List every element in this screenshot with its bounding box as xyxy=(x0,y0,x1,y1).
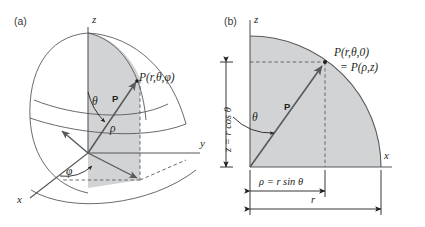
panel-b-vertical-dim-label: z = r cos θ xyxy=(223,107,234,152)
panel-b-r-dim-label: r xyxy=(311,195,315,206)
panel-b-graphic xyxy=(212,0,425,227)
panel-a-theta-label: θ xyxy=(92,96,98,108)
axis-x-line xyxy=(30,153,88,198)
panel-b-rho-dim-label: ρ = r sin θ xyxy=(259,177,303,188)
panel-a-point-label: P(r,θ,φ) xyxy=(139,72,175,84)
panel-b-axis-z-label: z xyxy=(254,14,258,25)
panel-b: (b) z x P(r,θ,0) = P(ρ,z) P θ z = r cos … xyxy=(212,0,425,227)
panel-b-theta-label: θ xyxy=(252,112,258,124)
panel-a-axis-y-label: y xyxy=(200,138,205,149)
panel-a-graphic xyxy=(0,0,213,227)
point-p-marker-b xyxy=(323,60,327,64)
panel-b-point-label-1: P(r,θ,0) xyxy=(334,47,369,59)
panel-a-phi-label: φ xyxy=(66,166,72,178)
panel-a-tag: (a) xyxy=(14,16,27,27)
panel-b-vector-label: P xyxy=(284,102,290,112)
panel-b-point-label-2: = P(ρ,z) xyxy=(340,62,378,74)
rho-arrow-reverse xyxy=(62,131,88,153)
panel-a-axis-x-label: x xyxy=(17,194,22,205)
panel-a-axis-z-label: z xyxy=(92,14,96,25)
figure-root: (a) z y x P(r,θ,φ) P θ ρ φ xyxy=(0,0,425,227)
panel-b-tag: (b) xyxy=(224,16,237,27)
dashed-to-y-axis xyxy=(140,160,186,180)
panel-a: (a) z y x P(r,θ,φ) P θ ρ φ xyxy=(0,0,213,227)
sphere-outline-left xyxy=(30,33,88,193)
panel-a-rho-label: ρ xyxy=(110,123,116,135)
panel-a-vector-label: P xyxy=(112,94,118,104)
panel-b-axis-x-label: x xyxy=(384,150,389,161)
